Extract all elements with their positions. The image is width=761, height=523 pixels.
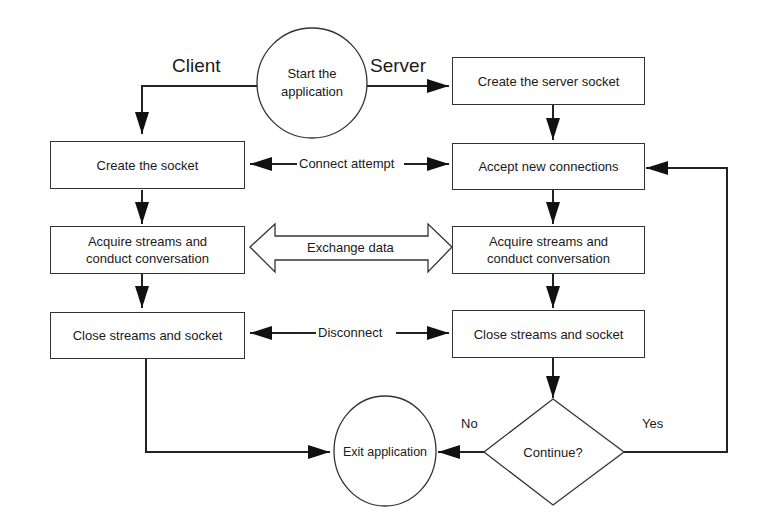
start-line2: application [262, 83, 362, 101]
connect-attempt-label: Connect attempt [299, 156, 394, 171]
server-create-socket-label: Create the server socket [478, 73, 620, 90]
start-node: Start the application [262, 65, 362, 101]
server-create-socket-box: Create the server socket [452, 57, 645, 105]
client-close-label: Close streams and socket [73, 327, 223, 344]
decision-yes-label: Yes [642, 416, 663, 431]
server-acquire-line2: conduct conversation [487, 250, 610, 267]
decision-no-label: No [461, 416, 478, 431]
client-close-box: Close streams and socket [50, 312, 245, 359]
server-accept-box: Accept new connections [452, 143, 645, 190]
exit-node: Exit application [334, 443, 436, 461]
start-line1: Start the [262, 65, 362, 83]
client-create-socket-box: Create the socket [50, 141, 245, 189]
client-acquire-streams-box: Acquire streams and conduct conversation [50, 226, 245, 274]
continue-decision: Continue? [503, 444, 603, 462]
client-acquire-line2: conduct conversation [86, 250, 209, 267]
exchange-data-label: Exchange data [307, 240, 394, 255]
server-title: Server [370, 55, 426, 77]
disconnect-label: Disconnect [318, 325, 382, 340]
client-acquire-line1: Acquire streams and [88, 233, 207, 250]
server-close-box: Close streams and socket [452, 310, 645, 358]
server-close-label: Close streams and socket [474, 326, 624, 343]
server-acquire-line1: Acquire streams and [489, 233, 608, 250]
client-create-socket-label: Create the socket [97, 157, 199, 174]
server-acquire-streams-box: Acquire streams and conduct conversation [452, 226, 645, 274]
client-title: Client [172, 55, 221, 77]
server-accept-label: Accept new connections [478, 158, 618, 175]
